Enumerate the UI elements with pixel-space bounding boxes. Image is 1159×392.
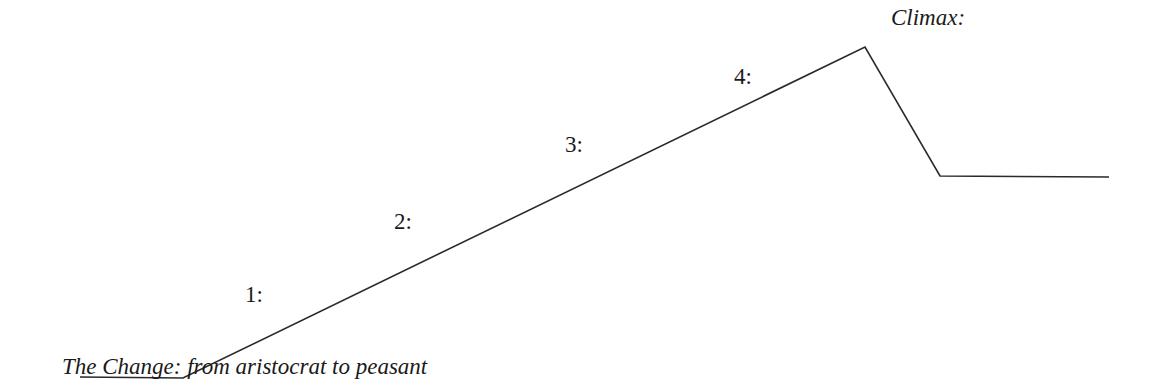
change-label: The Change: from aristocrat to peasant [62,355,427,378]
step-3-label: 3: [565,133,583,156]
step-4-label: 4: [734,65,752,88]
step-2-label: 2: [394,210,412,233]
climax-label: Climax: [891,6,965,29]
plot-line-diagram [0,0,1159,392]
plot-arc-line [80,47,1109,378]
step-1-label: 1: [245,283,263,306]
